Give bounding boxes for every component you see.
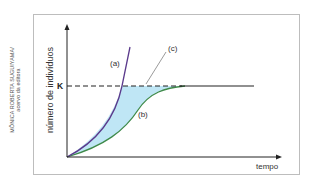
c-pointer-line [146,52,166,84]
curve-b-label: (b) [138,110,148,119]
area-c-label: (c) [168,44,177,53]
y-axis-arrow-icon [65,24,70,30]
x-axis-arrow-icon [276,155,282,160]
x-axis-label: tempo [256,162,278,171]
curve-a-label: (a) [110,59,120,68]
k-label: K [57,81,63,91]
y-axis-label: número de indivíduos [45,47,55,133]
